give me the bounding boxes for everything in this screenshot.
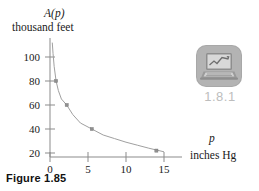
tech-reference-number: 1.8.1 bbox=[195, 89, 245, 104]
figure-caption: Figure 1.85 bbox=[6, 172, 66, 184]
y-tick-label-40: 40 bbox=[14, 124, 40, 135]
data-curve bbox=[52, 43, 164, 152]
laptop-chart-icon[interactable] bbox=[197, 46, 241, 86]
x-tick-label-15: 15 bbox=[154, 164, 174, 175]
y-axis-function-name: A bbox=[44, 7, 51, 19]
data-point-marker bbox=[90, 127, 93, 130]
data-point-marker bbox=[65, 103, 68, 106]
y-tick-label-20: 20 bbox=[14, 148, 40, 159]
data-point-markers bbox=[54, 79, 158, 152]
figure-container: 100 80 60 40 20 0 5 10 15 A(p) thousand … bbox=[0, 0, 259, 191]
y-axis-units-label: thousand feet bbox=[12, 22, 74, 34]
data-point-marker bbox=[54, 79, 57, 82]
y-tick-label-100: 100 bbox=[14, 52, 40, 63]
y-axis-variable: p bbox=[55, 7, 61, 19]
x-axis-units-label: inches Hg bbox=[190, 150, 236, 162]
laptop-chart-icon-glyph bbox=[197, 46, 241, 86]
x-axis-title: p bbox=[209, 133, 215, 145]
x-tick-label-10: 10 bbox=[116, 164, 136, 175]
x-tick-label-5: 5 bbox=[78, 164, 98, 175]
y-tick-label-80: 80 bbox=[14, 76, 40, 87]
y-tick-label-60: 60 bbox=[14, 100, 40, 111]
y-axis-title: A(p) bbox=[44, 8, 64, 20]
tech-reference-badge[interactable]: 1.8.1 bbox=[195, 46, 245, 110]
data-point-marker bbox=[155, 149, 158, 152]
